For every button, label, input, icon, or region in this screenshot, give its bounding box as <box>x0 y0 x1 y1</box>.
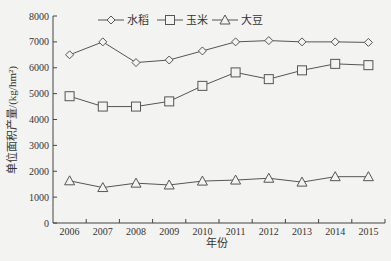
x-axis: 2006200720082009201020112012201320142015 <box>53 219 385 237</box>
x-tick-label: 2008 <box>126 226 146 237</box>
y-tick-label: 2000 <box>29 166 49 177</box>
series-diamond <box>66 37 373 67</box>
square-marker <box>298 66 307 75</box>
diamond-marker <box>298 38 306 46</box>
y-tick-label: 7000 <box>29 36 49 47</box>
y-axis-title: 单位面积产量/(kg/hm²) <box>5 66 19 174</box>
legend-label: 大豆 <box>241 13 263 26</box>
square-marker <box>98 102 107 111</box>
legend-label: 水稻 <box>127 14 149 26</box>
square-marker <box>65 92 74 101</box>
x-tick-label: 2014 <box>325 226 345 237</box>
y-tick-label: 1000 <box>29 192 49 203</box>
diamond-marker <box>198 47 206 55</box>
square-marker <box>264 75 273 84</box>
series-square <box>65 59 373 111</box>
y-tick-label: 5000 <box>29 88 49 99</box>
legend-square-icon <box>166 16 175 25</box>
diamond-marker <box>265 37 273 45</box>
legend: 水稻玉米大豆 <box>98 13 263 26</box>
legend-diamond-icon <box>107 16 115 24</box>
x-tick-label: 2013 <box>292 226 312 237</box>
diamond-marker <box>165 56 173 64</box>
x-tick-label: 2006 <box>60 226 80 237</box>
diamond-marker <box>331 38 339 46</box>
square-marker <box>364 61 373 70</box>
x-axis-title: 年份 <box>206 236 228 249</box>
triangle-marker <box>131 178 141 187</box>
diamond-marker <box>132 59 140 67</box>
x-tick-label: 2012 <box>259 226 279 237</box>
diamond-marker <box>66 51 74 59</box>
square-marker <box>198 81 207 90</box>
y-tick-label: 3000 <box>29 140 49 151</box>
x-tick-label: 2015 <box>358 226 378 237</box>
y-tick-label: 8000 <box>29 11 49 22</box>
square-marker <box>231 68 240 77</box>
x-tick-label: 2007 <box>93 226 113 237</box>
y-axis: 010002000300040005000600070008000 <box>29 11 57 229</box>
series-layer <box>65 37 374 192</box>
square-marker <box>165 97 174 106</box>
diamond-marker <box>364 38 372 46</box>
y-tick-label: 6000 <box>29 62 49 73</box>
triangle-marker <box>264 173 274 182</box>
y-tick-label: 0 <box>44 218 49 229</box>
triangle-marker <box>65 176 75 185</box>
x-tick-label: 2009 <box>159 226 179 237</box>
legend-label: 玉米 <box>186 14 208 26</box>
diamond-marker <box>232 38 240 46</box>
diamond-marker <box>99 38 107 46</box>
line-chart: 010002000300040005000600070008000 200620… <box>0 0 391 261</box>
y-tick-label: 4000 <box>29 114 49 125</box>
series-triangle <box>65 172 374 192</box>
x-tick-label: 2010 <box>192 226 212 237</box>
square-marker <box>132 102 141 111</box>
x-tick-label: 2011 <box>226 226 246 237</box>
square-marker <box>331 59 340 68</box>
